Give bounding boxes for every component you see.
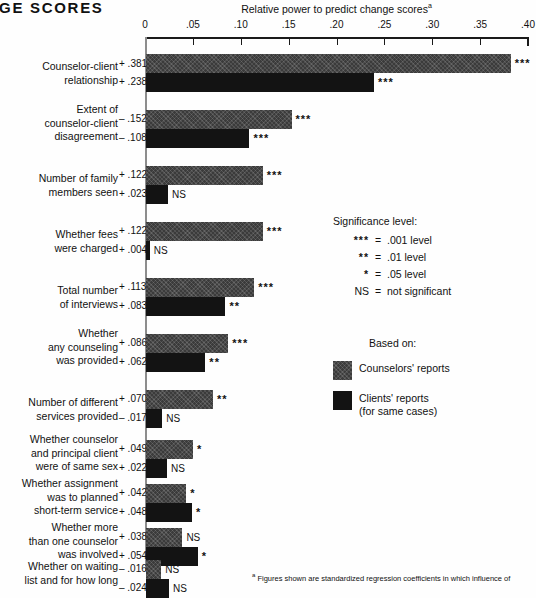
bar-value-label: – .108: [119, 132, 143, 143]
significance-marker: NS: [173, 579, 187, 598]
significance-marker: ***: [253, 129, 269, 148]
significance-key-symbol: NS: [333, 285, 369, 297]
category-label: Number of family members seen: [39, 172, 118, 199]
bar-value-label: – .152: [119, 113, 143, 124]
series-legend-swatch: [333, 391, 352, 410]
bar: [146, 503, 192, 522]
significance-marker: ***: [267, 222, 283, 241]
series-legend-swatch: [333, 361, 352, 380]
category-label: Whether counselor and principal client w…: [30, 433, 118, 474]
significance-key-row: **=.01 level: [333, 251, 451, 263]
bar: [146, 110, 292, 129]
significance-key-text: .01 level: [387, 251, 426, 263]
category-label: Counselor-client relationship: [42, 60, 118, 87]
significance-key-equals: =: [369, 234, 387, 246]
series-legend-rows: Counselors' reportsClients' reports (for…: [333, 361, 450, 418]
bar: [146, 459, 167, 478]
series-legend-label: Clients' reports (for same cases): [359, 391, 437, 418]
bar-value-label: + .122: [119, 225, 143, 236]
bar: [146, 278, 254, 297]
bar-value-label: + .042: [119, 487, 143, 498]
bar-value-label: + .122: [119, 169, 143, 180]
significance-marker: ***: [267, 166, 283, 185]
bar: [146, 297, 225, 316]
significance-key-symbol: **: [333, 251, 369, 263]
bar: [146, 484, 186, 503]
series-legend-item: Clients' reports (for same cases): [333, 391, 450, 418]
significance-marker: ***: [378, 73, 394, 92]
bar: [146, 390, 213, 409]
bar-value-label: + .062: [119, 356, 143, 367]
series-legend: Based on: Counselors' reportsClients' re…: [333, 337, 450, 429]
bar-value-label: + .083: [119, 300, 143, 311]
bar: [146, 528, 182, 547]
bar-value-label: + .004: [119, 244, 143, 255]
significance-marker: ***: [232, 334, 248, 353]
bar: [146, 353, 205, 372]
bar: [146, 409, 162, 428]
significance-marker: NS: [166, 409, 180, 428]
category-label: Whether assignment was to planned short-…: [22, 477, 118, 518]
bar-value-label: + .070: [119, 393, 143, 404]
bar-value-label: – .017: [119, 412, 143, 423]
bar-value-label: – .016: [119, 563, 143, 574]
significance-marker: *: [197, 440, 202, 459]
series-legend-item: Counselors' reports: [333, 361, 450, 380]
bar: [146, 166, 263, 185]
bar-value-label: + .381a: [119, 57, 143, 69]
significance-key-equals: =: [369, 285, 387, 297]
bar: [146, 222, 263, 241]
significance-marker: **: [229, 297, 240, 316]
bar-value-label: – .024: [119, 582, 143, 593]
significance-key-row: ***=.001 level: [333, 234, 451, 246]
significance-marker: **: [209, 353, 220, 372]
significance-marker: *: [196, 503, 201, 522]
significance-key-header: Significance level:: [333, 215, 451, 227]
category-label: Extent of counselor-client disagreement: [44, 103, 118, 144]
significance-key: Significance level: ***=.001 level**=.01…: [333, 215, 451, 302]
bar-value-label: + .049: [119, 443, 143, 454]
significance-marker: ***: [258, 278, 274, 297]
bar-value-label: + .113: [119, 281, 143, 292]
bar: [146, 73, 374, 92]
significance-marker: NS: [186, 528, 200, 547]
category-label: Whether more than one counselor was invo…: [29, 521, 118, 562]
bar-value-label: + .038: [119, 531, 143, 542]
significance-key-symbol: ***: [333, 234, 369, 246]
significance-marker: NS: [154, 241, 168, 260]
bar-value-label: + .054: [119, 550, 143, 561]
bar-value-label: + .238: [119, 76, 143, 87]
significance-marker: NS: [165, 560, 179, 579]
series-legend-label: Counselors' reports: [359, 361, 450, 375]
bar: [146, 579, 169, 598]
significance-marker: ***: [296, 110, 312, 129]
bar: [146, 241, 150, 260]
bar: [146, 334, 228, 353]
bar-value-label: + .086: [119, 337, 143, 348]
bar: [146, 185, 168, 204]
significance-marker: *: [202, 547, 207, 566]
bar-value-label: + .022: [119, 462, 143, 473]
bar-value-label: + .023: [119, 188, 143, 199]
bar: [146, 560, 161, 579]
bar-value-label: + .048: [119, 506, 143, 517]
footnote-marker: a: [252, 572, 255, 578]
category-label: Whether fees were charged: [54, 228, 118, 255]
category-label: Whether any counseling was provided: [48, 327, 118, 368]
figure-footnote: a Figures shown are standardized regress…: [252, 570, 536, 584]
significance-key-symbol: *: [333, 268, 369, 280]
significance-key-rows: ***=.001 level**=.01 level*=.05 levelNS=…: [333, 234, 451, 297]
footnote-text: Figures shown are standardized regressio…: [257, 574, 510, 583]
bar: [146, 54, 511, 73]
significance-marker: NS: [172, 185, 186, 204]
category-label: Number of different services provided: [28, 396, 118, 423]
significance-marker: NS: [171, 459, 185, 478]
significance-key-row: *=.05 level: [333, 268, 451, 280]
bar: [146, 440, 193, 459]
significance-marker: ***: [515, 54, 531, 73]
significance-key-text: .05 level: [387, 268, 426, 280]
significance-key-equals: =: [369, 268, 387, 280]
category-label: Whether on waiting list and for how long: [25, 560, 118, 587]
